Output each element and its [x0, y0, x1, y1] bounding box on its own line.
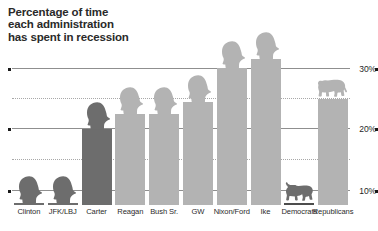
bar-bush-sr[interactable]	[149, 114, 179, 206]
axis-dot-left-10	[8, 190, 11, 193]
bar-series	[12, 0, 350, 206]
head-silhouette	[185, 74, 211, 104]
bar-nixon-ford[interactable]	[217, 68, 247, 206]
head-silhouette	[84, 101, 110, 131]
category-label: Republicans	[312, 207, 354, 217]
bar-republicans[interactable]	[318, 99, 348, 207]
axis-dot-left-30	[8, 68, 11, 71]
bar-ike[interactable]	[251, 59, 281, 206]
axis-dot-left-20	[8, 128, 11, 131]
head-silhouette	[151, 86, 177, 116]
head-silhouette	[50, 175, 76, 205]
baseline	[12, 205, 350, 206]
bar-column[interactable]	[318, 99, 348, 207]
ytick-label-30: 30%	[359, 65, 376, 74]
category-label-row: ClintonJFK/LBJCarterReaganBush Sr.GWNixo…	[12, 207, 350, 221]
plot-area: 30% 20% 10%	[12, 0, 350, 206]
bar-column[interactable]	[183, 102, 213, 206]
donkey-icon	[284, 182, 314, 204]
bar-column[interactable]	[82, 129, 112, 206]
ytick-label-20: 20%	[359, 125, 376, 134]
bar-column[interactable]	[251, 59, 281, 206]
bar-carter[interactable]	[82, 129, 112, 206]
bar-column[interactable]	[149, 114, 179, 206]
head-silhouette	[117, 86, 143, 116]
elephant-icon	[316, 78, 350, 100]
head-silhouette	[16, 175, 42, 205]
bar-column[interactable]	[217, 68, 247, 206]
head-silhouette	[219, 40, 245, 70]
bar-column[interactable]	[115, 114, 145, 206]
ytick-label-10: 10%	[359, 187, 376, 196]
head-silhouette	[253, 31, 279, 61]
bar-reagan[interactable]	[115, 114, 145, 206]
bar-gw[interactable]	[183, 102, 213, 206]
